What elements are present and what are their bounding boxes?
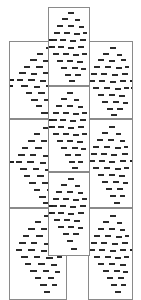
dash-mark bbox=[78, 192, 83, 194]
dash-mark bbox=[75, 185, 80, 187]
dash-mark bbox=[73, 113, 79, 115]
dash-mark bbox=[34, 256, 40, 258]
dash-mark bbox=[21, 256, 28, 258]
dash-mark bbox=[34, 133, 40, 135]
dash-mark bbox=[105, 235, 111, 237]
dash-mark bbox=[119, 175, 125, 177]
center-panel-bottom[interactable] bbox=[48, 172, 90, 256]
dash-mark bbox=[52, 284, 57, 286]
dash-mark bbox=[102, 132, 108, 134]
dash-mark bbox=[99, 249, 105, 251]
dash-mark bbox=[98, 228, 104, 230]
dash-mark bbox=[58, 226, 64, 228]
dash-mark bbox=[109, 228, 115, 230]
dash-mark bbox=[79, 26, 84, 28]
dash-mark bbox=[63, 53, 69, 55]
dash-mark bbox=[77, 61, 83, 63]
dash-mark bbox=[57, 140, 63, 142]
center-panel-top[interactable] bbox=[48, 7, 90, 86]
dash-mark bbox=[24, 66, 30, 68]
dash-mark bbox=[28, 79, 35, 81]
dash-mark bbox=[57, 256, 62, 258]
dash-mark bbox=[30, 154, 36, 156]
dash-mark bbox=[94, 66, 100, 68]
dash-mark bbox=[20, 168, 27, 170]
dash-mark bbox=[60, 39, 66, 41]
dash-mark bbox=[109, 126, 115, 128]
dash-mark bbox=[112, 74, 118, 76]
dash-mark bbox=[53, 112, 59, 114]
dash-mark bbox=[35, 221, 41, 223]
right-panel-middle[interactable] bbox=[88, 119, 133, 208]
dash-mark bbox=[55, 271, 60, 273]
dash-mark bbox=[80, 119, 86, 121]
right-panel-bottom[interactable] bbox=[88, 208, 133, 300]
dash-mark bbox=[69, 80, 75, 82]
dash-mark bbox=[73, 233, 79, 235]
edge-tick-mark bbox=[49, 119, 53, 121]
dash-mark bbox=[34, 86, 40, 88]
dash-mark bbox=[108, 139, 114, 141]
dash-mark bbox=[110, 215, 116, 217]
dash-mark bbox=[98, 94, 104, 96]
dash-mark bbox=[124, 256, 129, 258]
dash-mark bbox=[53, 133, 59, 135]
dash-mark bbox=[110, 47, 116, 49]
dash-mark bbox=[74, 99, 79, 101]
dash-mark bbox=[120, 140, 125, 142]
dash-mark bbox=[121, 284, 126, 286]
dash-mark bbox=[67, 92, 73, 94]
dash-mark bbox=[105, 256, 111, 258]
dash-mark bbox=[115, 88, 121, 90]
dash-mark bbox=[71, 248, 77, 250]
dash-mark bbox=[16, 249, 22, 251]
dash-mark bbox=[73, 54, 79, 56]
dash-mark bbox=[82, 53, 87, 55]
dash-mark bbox=[74, 33, 80, 35]
dash-mark bbox=[62, 18, 68, 20]
dash-mark bbox=[101, 73, 107, 75]
dash-mark bbox=[118, 277, 124, 279]
dash-mark bbox=[109, 60, 115, 62]
dash-mark bbox=[63, 198, 69, 200]
center-panel-middle[interactable] bbox=[48, 86, 90, 172]
dash-mark bbox=[120, 80, 126, 82]
dash-mark bbox=[68, 25, 74, 27]
dash-mark bbox=[63, 112, 69, 114]
dash-mark bbox=[53, 198, 59, 200]
dash-mark bbox=[38, 263, 45, 265]
dash-mark bbox=[36, 66, 43, 68]
dash-mark bbox=[53, 53, 59, 55]
dash-mark bbox=[68, 213, 74, 215]
dash-mark bbox=[81, 68, 86, 70]
document-page bbox=[0, 0, 141, 300]
dash-mark bbox=[65, 154, 71, 156]
dash-mark bbox=[103, 270, 109, 272]
dash-mark bbox=[67, 240, 73, 242]
dash-mark bbox=[91, 153, 97, 155]
dash-mark bbox=[44, 291, 50, 293]
dash-mark bbox=[107, 108, 113, 110]
dash-mark bbox=[22, 147, 28, 149]
dash-mark bbox=[17, 79, 23, 81]
dash-mark bbox=[116, 236, 122, 238]
dash-mark bbox=[81, 148, 86, 150]
dash-mark bbox=[102, 101, 108, 103]
dash-mark bbox=[116, 133, 121, 135]
dash-mark bbox=[124, 167, 129, 169]
dash-mark bbox=[111, 284, 117, 286]
dash-mark bbox=[51, 264, 57, 266]
dash-mark bbox=[123, 271, 128, 273]
dash-mark bbox=[80, 39, 86, 41]
edge-tick-mark bbox=[10, 79, 14, 81]
dash-mark bbox=[40, 80, 46, 82]
dash-mark bbox=[82, 198, 87, 200]
dash-mark bbox=[41, 140, 47, 142]
dash-mark bbox=[70, 120, 76, 122]
dash-mark bbox=[110, 81, 116, 83]
right-panel-top[interactable] bbox=[88, 41, 133, 119]
dash-mark bbox=[41, 112, 48, 114]
dash-mark bbox=[46, 257, 53, 259]
edge-tick-mark bbox=[131, 87, 133, 89]
dash-mark bbox=[98, 263, 104, 265]
